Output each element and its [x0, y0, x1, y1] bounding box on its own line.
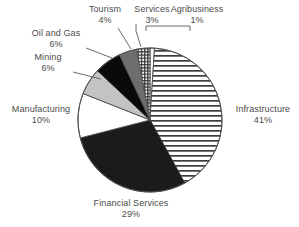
- label-agribusiness-name: Agribusiness: [161, 4, 233, 15]
- leader-line-oil-and-gas: [86, 48, 112, 58]
- leader-line-agribusiness: [146, 26, 190, 31]
- label-financial-services-pct: 29%: [83, 209, 179, 220]
- label-agribusiness: Agribusiness 1%: [161, 4, 233, 25]
- label-infrastructure-pct: 41%: [230, 115, 296, 126]
- label-manufacturing: Manufacturing 10%: [3, 104, 79, 125]
- label-manufacturing-name: Manufacturing: [3, 104, 79, 115]
- label-oil-and-gas-name: Oil and Gas: [25, 28, 87, 39]
- leader-line-tourism: [118, 28, 131, 49]
- label-financial-services: Financial Services 29%: [83, 198, 179, 219]
- label-oil-and-gas: Oil and Gas 6%: [25, 28, 87, 49]
- label-infrastructure-name: Infrastructure: [230, 104, 296, 115]
- label-tourism: Tourism 4%: [76, 4, 134, 25]
- label-manufacturing-pct: 10%: [3, 115, 79, 126]
- pie-slices: [78, 48, 222, 192]
- leader-line-services: [136, 24, 141, 47]
- label-tourism-pct: 4%: [76, 15, 134, 26]
- label-infrastructure: Infrastructure 41%: [230, 104, 296, 125]
- label-agribusiness-pct: 1%: [161, 15, 233, 26]
- label-financial-services-name: Financial Services: [83, 198, 179, 209]
- label-mining-name: Mining: [24, 52, 72, 63]
- label-mining: Mining 6%: [24, 52, 72, 73]
- label-tourism-name: Tourism: [76, 4, 134, 15]
- label-mining-pct: 6%: [24, 63, 72, 74]
- pie-chart: Tourism 4% Services 3% Agribusiness 1% O…: [0, 0, 299, 227]
- label-oil-and-gas-pct: 6%: [25, 39, 87, 50]
